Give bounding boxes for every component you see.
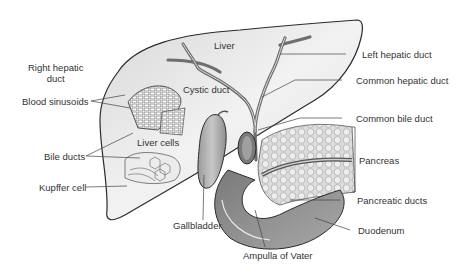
label-right-hepatic-duct-line1: Right hepatic xyxy=(28,62,83,73)
label-left-hepatic-duct: Left hepatic duct xyxy=(362,49,432,60)
label-gallbladder: Gallbladder xyxy=(173,220,222,231)
label-pancreas: Pancreas xyxy=(359,155,399,166)
label-common-hepatic-duct: Common hepatic duct xyxy=(356,75,448,86)
label-cystic-duct: Cystic duct xyxy=(183,84,229,95)
label-ampulla-of-vater: Ampulla of Vater xyxy=(243,250,313,261)
label-right-hepatic-duct: Right hepatic duct xyxy=(28,62,83,84)
label-common-bile-duct: Common bile duct xyxy=(356,113,433,124)
label-duodenum: Duodenum xyxy=(358,225,404,236)
label-liver-cells: Liver cells xyxy=(137,137,179,148)
label-pancreatic-ducts: Pancreatic ducts xyxy=(357,195,427,206)
label-liver: Liver xyxy=(214,40,235,51)
label-bile-ducts: Bile ducts xyxy=(44,151,85,162)
label-right-hepatic-duct-line2: duct xyxy=(28,73,83,84)
label-blood-sinusoids: Blood sinusoids xyxy=(22,96,89,107)
label-kupffer-cell: Kupffer cell xyxy=(39,182,86,193)
